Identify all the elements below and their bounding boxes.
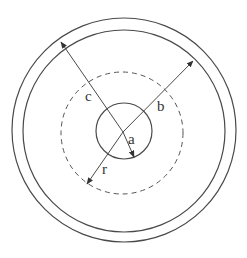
radius-c-arrow xyxy=(61,42,123,132)
label-a: a xyxy=(128,131,135,147)
label-b: b xyxy=(157,98,165,114)
label-r: r xyxy=(102,161,107,177)
radius-b-arrow xyxy=(123,61,193,132)
outer-shell-outer-circle xyxy=(12,18,236,242)
concentric-circles-diagram: c b a r xyxy=(0,0,247,258)
label-c: c xyxy=(85,88,92,104)
